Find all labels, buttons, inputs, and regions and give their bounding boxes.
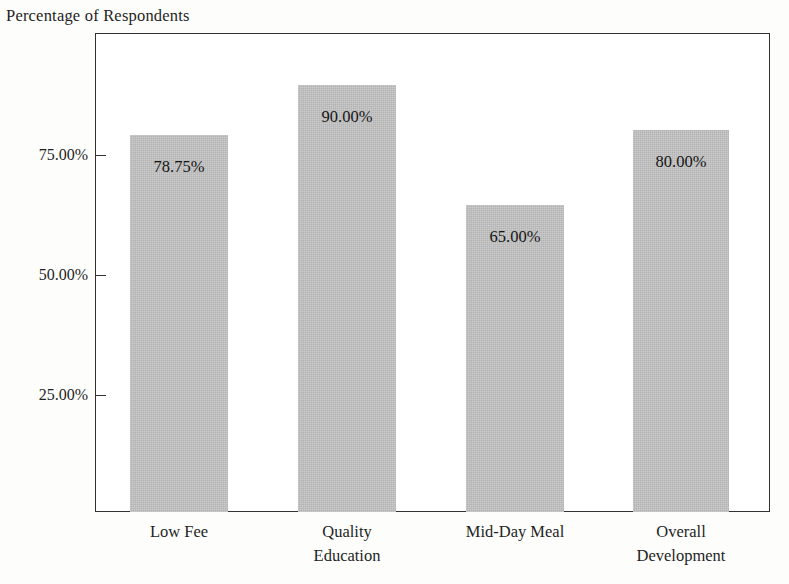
category-label-low-fee: Low Fee <box>130 520 228 544</box>
category-label-line: Development <box>615 544 747 568</box>
y-tick-label: 50.00% <box>39 266 88 284</box>
chart-title: Percentage of Respondents <box>6 6 190 26</box>
category-label-line: Low Fee <box>130 520 228 544</box>
y-tick-label: 75.00% <box>39 146 88 164</box>
bar-low-fee: 78.75% <box>130 135 228 512</box>
category-label-quality-education: Quality Education <box>298 520 396 568</box>
bar-value-label: 80.00% <box>656 152 707 172</box>
bar-overall-development: 80.00% <box>633 130 729 512</box>
category-label-mid-day-meal: Mid-Day Meal <box>448 520 582 544</box>
y-tick-mark <box>95 155 106 156</box>
chart-figure: Percentage of Respondents 75.00% 50.00% … <box>0 0 789 584</box>
category-label-line: Mid-Day Meal <box>448 520 582 544</box>
bar-quality-education: 90.00% <box>298 85 396 512</box>
y-tick-label: 25.00% <box>39 386 88 404</box>
category-label-line: Quality <box>298 520 396 544</box>
bar-value-label: 65.00% <box>490 227 541 247</box>
bar-value-label: 78.75% <box>154 157 205 177</box>
bar-value-label: 90.00% <box>322 107 373 127</box>
y-tick-mark <box>95 395 106 396</box>
category-label-overall-development: Overall Development <box>615 520 747 568</box>
bar-mid-day-meal: 65.00% <box>466 205 564 512</box>
category-label-line: Overall <box>615 520 747 544</box>
y-tick-mark <box>95 275 106 276</box>
category-label-line: Education <box>298 544 396 568</box>
